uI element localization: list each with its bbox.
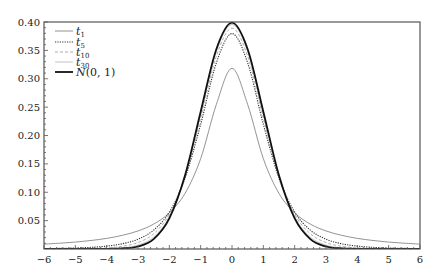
y-tick-label: 0.05 xyxy=(18,215,40,226)
plot-border xyxy=(44,22,420,249)
curve-n-0-1 xyxy=(44,23,420,249)
legend-item: N(0, 1) xyxy=(55,66,115,79)
plot-frame xyxy=(44,22,420,249)
x-tick-label: −1 xyxy=(193,254,208,265)
y-tick-label: 0.15 xyxy=(18,158,40,169)
x-tick-label: 0 xyxy=(229,254,235,265)
y-tick-label: 0.10 xyxy=(18,187,40,198)
x-tick-label: −4 xyxy=(99,254,114,265)
y-tick-label: 0.25 xyxy=(18,102,40,113)
x-tick-label: 3 xyxy=(323,254,329,265)
y-tick-label: 0.35 xyxy=(18,45,40,56)
legend-label: N(0, 1) xyxy=(75,66,115,79)
x-tick-label: 2 xyxy=(291,254,297,265)
plot-curves xyxy=(44,23,420,249)
y-tick-label: 0.20 xyxy=(18,130,40,141)
curve-t30 xyxy=(44,25,420,250)
y-tick-label: 0.40 xyxy=(18,17,40,28)
x-tick-label: 4 xyxy=(354,254,360,265)
x-tick-label: −2 xyxy=(162,254,177,265)
x-tick-label: −5 xyxy=(68,254,83,265)
x-tick-label: 6 xyxy=(417,254,423,265)
t-distribution-chart: −6−5−4−3−2−10123456 0.050.100.150.200.25… xyxy=(0,0,441,279)
x-tick-label: 1 xyxy=(260,254,266,265)
legend: t1t5t10t30N(0, 1) xyxy=(55,25,115,79)
curve-t10 xyxy=(44,28,420,249)
x-tick-label: −3 xyxy=(131,254,146,265)
y-tick-label: 0.30 xyxy=(18,73,40,84)
x-tick-label: 5 xyxy=(385,254,391,265)
curve-t1 xyxy=(44,68,420,244)
x-tick-label: −6 xyxy=(37,254,52,265)
